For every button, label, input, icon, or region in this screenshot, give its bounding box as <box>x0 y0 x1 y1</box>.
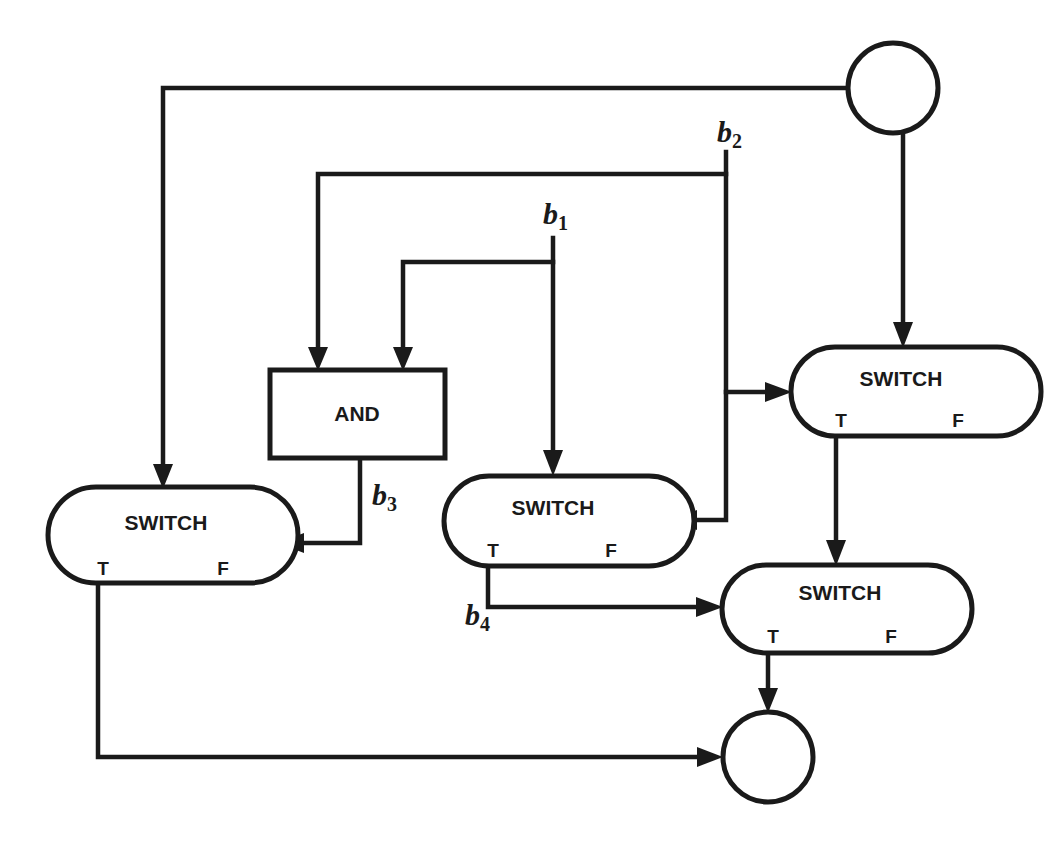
switch-middle-true-port: T <box>487 540 499 561</box>
switch-right-bottom-false-port: F <box>885 626 897 647</box>
switch-middle-label: SWITCH <box>512 496 595 519</box>
edge-source-to-switch-left <box>163 88 848 468</box>
switch-right-top-false-port: F <box>952 410 964 431</box>
signal-label-b2: b2 <box>717 115 742 152</box>
switch-right-bottom-true-port: T <box>767 626 779 647</box>
arrowhead-icon <box>393 347 413 371</box>
dataflow-diagram: AND SWITCH T F SWITCH T F SWITCH T F SWI… <box>0 0 1064 846</box>
edge-and-to-switch-left <box>300 458 360 543</box>
signal-label-b1: b1 <box>543 197 568 234</box>
arrowhead-icon <box>308 347 328 371</box>
switch-middle-false-port: F <box>605 540 617 561</box>
switch-right-bottom-label: SWITCH <box>799 581 882 604</box>
arrowhead-icon <box>697 747 723 767</box>
switch-left-label: SWITCH <box>125 511 208 534</box>
switch-left-node: SWITCH T F <box>48 487 298 583</box>
switch-right-top-label: SWITCH <box>860 367 943 390</box>
switch-right-top-true-port: T <box>835 410 847 431</box>
and-gate-label: AND <box>334 402 380 425</box>
switch-right-top-node: SWITCH T F <box>791 347 1041 436</box>
arrowhead-icon <box>893 322 913 348</box>
switch-left-false-port: F <box>217 558 229 579</box>
edge-b2-trunk <box>693 152 726 520</box>
source-node <box>848 43 938 133</box>
edge-b1-to-and <box>403 262 553 350</box>
switch-right-bottom-node: SWITCH T F <box>722 565 972 653</box>
switch-left-true-port: T <box>97 558 109 579</box>
signal-label-b3: b3 <box>372 478 397 515</box>
and-gate-node: AND <box>270 370 445 458</box>
arrowhead-icon <box>826 540 846 566</box>
arrowhead-icon <box>696 597 723 617</box>
sink-node <box>723 712 813 802</box>
arrowhead-icon <box>543 450 563 476</box>
edge-switch-middle-to-switch-right-bottom <box>488 566 698 607</box>
arrowhead-icon <box>765 382 792 402</box>
switch-middle-node: SWITCH T F <box>444 476 694 566</box>
arrowhead-icon <box>758 688 778 713</box>
